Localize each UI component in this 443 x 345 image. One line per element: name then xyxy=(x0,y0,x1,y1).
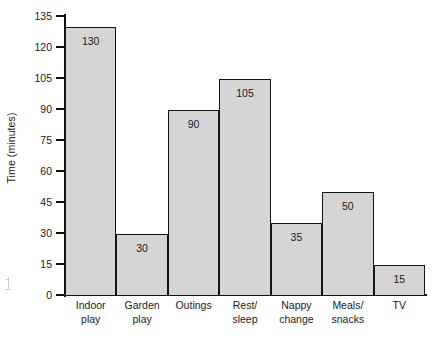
bar-value-label: 130 xyxy=(66,35,115,47)
y-axis-tick xyxy=(56,15,64,16)
bar-value-label: 50 xyxy=(323,200,372,212)
y-axis-tick-label: 30 xyxy=(22,227,52,239)
x-axis-category-label: Rest/sleep xyxy=(219,299,270,326)
y-axis-tick xyxy=(56,170,64,171)
scan-artifact xyxy=(5,277,11,291)
y-axis-tick-label: 135 xyxy=(22,10,52,22)
y-axis-label: Time (minutes) xyxy=(0,0,22,295)
category-label-line2: snacks xyxy=(322,313,373,327)
x-axis-category-label: Meals/snacks xyxy=(322,299,373,326)
bar[interactable]: 35 xyxy=(271,223,322,295)
y-axis-tick-label: 120 xyxy=(22,41,52,53)
bar-value-label: 30 xyxy=(117,242,166,254)
y-axis-tick xyxy=(56,46,64,47)
y-axis-tick-label: 15 xyxy=(22,258,52,270)
y-axis-tick xyxy=(56,263,64,264)
bar-value-label: 90 xyxy=(169,118,218,130)
x-axis-category-label: Outings xyxy=(168,299,219,313)
category-label-line1: Outings xyxy=(175,299,211,311)
bar[interactable]: 50 xyxy=(322,192,373,295)
y-axis-tick xyxy=(56,139,64,140)
x-axis-category-label: Nappychange xyxy=(271,299,322,326)
bar[interactable]: 30 xyxy=(116,234,167,296)
bar-value-label: 35 xyxy=(272,231,321,243)
bar-value-label: 15 xyxy=(375,273,424,285)
bar[interactable]: 105 xyxy=(219,79,270,296)
x-axis-category-label: Gardenplay xyxy=(116,299,167,326)
y-axis-tick xyxy=(56,77,64,78)
y-axis-tick-label: 105 xyxy=(22,72,52,84)
bar-value-label: 105 xyxy=(220,87,269,99)
category-label-line1: Garden xyxy=(125,299,160,311)
bars-group: 1303090105355015 xyxy=(65,0,426,296)
category-label-line2: sleep xyxy=(219,313,270,327)
y-axis-label-text: Time (minutes) xyxy=(5,112,17,183)
y-axis-tick-label: 75 xyxy=(22,134,52,146)
category-label-line1: TV xyxy=(393,299,406,311)
bar-chart-screenshot: Time (minutes) 0153045607590105120135 13… xyxy=(0,0,443,345)
y-axis-tick-label: 90 xyxy=(22,103,52,115)
category-label-line1: Indoor xyxy=(76,299,106,311)
y-axis-tick xyxy=(56,294,64,295)
y-axis-ticks: 0153045607590105120135 xyxy=(20,0,52,345)
y-axis-tick-label: 45 xyxy=(22,196,52,208)
category-label-line2: play xyxy=(65,313,116,327)
y-axis-tick xyxy=(56,201,64,202)
y-axis-tick-label: 0 xyxy=(22,289,52,301)
x-axis-category-label: TV xyxy=(374,299,425,313)
bar[interactable]: 130 xyxy=(65,27,116,296)
category-label-line1: Rest/ xyxy=(233,299,258,311)
y-axis-tick-label: 60 xyxy=(22,165,52,177)
category-label-line2: play xyxy=(116,313,167,327)
bar[interactable]: 15 xyxy=(374,265,425,296)
category-label-line2: change xyxy=(271,313,322,327)
x-axis-category-labels: IndoorplayGardenplayOutingsRest/sleepNap… xyxy=(65,299,426,341)
bar[interactable]: 90 xyxy=(168,110,219,296)
category-label-line1: Meals/ xyxy=(332,299,363,311)
y-axis-tick xyxy=(56,108,64,109)
y-axis-tick xyxy=(56,232,64,233)
x-axis-category-label: Indoorplay xyxy=(65,299,116,326)
category-label-line1: Nappy xyxy=(281,299,311,311)
